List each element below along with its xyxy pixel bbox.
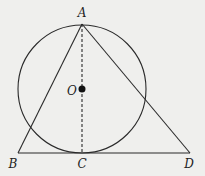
figure-canvas: A B C D O xyxy=(0,0,205,176)
label-c: C xyxy=(77,157,86,171)
geometry-figure: A B C D O xyxy=(0,0,205,176)
label-b: B xyxy=(8,157,18,171)
label-d: D xyxy=(183,157,194,171)
label-o: O xyxy=(67,84,77,98)
label-a: A xyxy=(77,6,87,20)
segment-ad xyxy=(82,24,190,153)
center-point-o xyxy=(79,86,86,93)
